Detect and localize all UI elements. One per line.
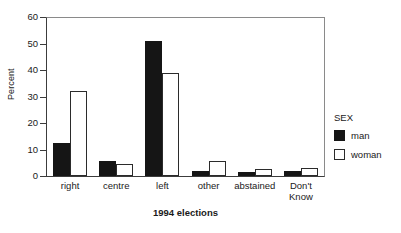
legend-swatch-woman-icon (334, 149, 345, 160)
legend-swatch-man-icon (334, 130, 345, 141)
legend-entries: manwoman (334, 130, 400, 160)
legend-item-woman[interactable]: woman (334, 149, 400, 160)
y-axis-tick-label: 60 (8, 12, 38, 22)
x-axis-tick-label: Don't Know (261, 180, 341, 202)
y-axis-tick (40, 17, 46, 18)
y-axis-tick (40, 44, 46, 45)
y-axis-tick (40, 150, 46, 151)
legend-item-man[interactable]: man (334, 130, 400, 141)
bar-man-centre (99, 161, 116, 176)
bar-man-don-t-know (284, 171, 301, 176)
y-axis-tick-label: 20 (8, 118, 38, 128)
bar-man-right (53, 143, 70, 176)
bar-man-abstained (238, 172, 255, 177)
y-axis-tick (40, 123, 46, 124)
y-axis-tick-label: 40 (8, 65, 38, 75)
bar-woman-centre (116, 164, 133, 176)
legend-title: SEX (334, 112, 400, 123)
legend-label: man (351, 130, 369, 141)
bar-man-other (192, 171, 209, 176)
y-axis-tick-label: 10 (8, 145, 38, 155)
y-axis-tick (40, 70, 46, 71)
bars-layer (47, 17, 324, 176)
bar-woman-don-t-know (301, 168, 318, 176)
bar-man-left (145, 41, 162, 176)
y-axis-tick-label: 50 (8, 39, 38, 49)
bar-woman-right (70, 91, 87, 176)
legend: SEX manwoman (334, 112, 400, 168)
y-axis-tick-label: 30 (8, 92, 38, 102)
legend-label: woman (351, 149, 382, 160)
bar-woman-left (162, 73, 179, 176)
bar-chart-figure: Percent 0102030405060 rightcentreleftoth… (0, 0, 401, 233)
x-axis-title: 1994 elections (46, 207, 325, 218)
bar-woman-abstained (255, 169, 272, 176)
y-axis-tick (40, 176, 46, 177)
y-axis-tick (40, 97, 46, 98)
bar-woman-other (209, 161, 226, 176)
